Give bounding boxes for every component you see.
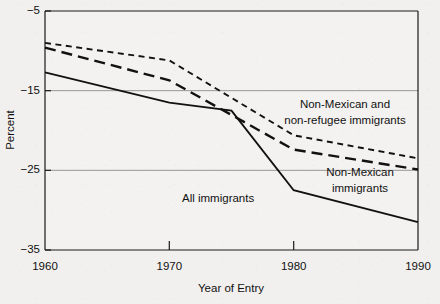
annotation-line-2: non-refugee immigrants bbox=[284, 114, 406, 126]
annotation-line-1: All immigrants bbox=[182, 192, 254, 204]
xtick-label-1980: 1980 bbox=[281, 260, 307, 272]
plot-area-background bbox=[45, 11, 418, 250]
annotation-line-1: Non-Mexican bbox=[326, 166, 394, 178]
x-axis-title: Year of Entry bbox=[198, 282, 264, 294]
chart-figure: −5 −15 −25 −35 1960 1970 1980 1990 Year … bbox=[0, 0, 440, 304]
ytick-label-minus25: −25 bbox=[20, 163, 40, 175]
annotation-line-1: Non-Mexican and bbox=[300, 98, 390, 110]
ytick-label-minus35: −35 bbox=[20, 243, 40, 255]
ytick-label-minus5: −5 bbox=[27, 4, 40, 16]
line-chart-svg: −5 −15 −25 −35 1960 1970 1980 1990 Year … bbox=[0, 0, 440, 304]
xtick-label-1960: 1960 bbox=[32, 260, 58, 272]
annotation-all-immigrants: All immigrants bbox=[182, 192, 254, 204]
xtick-label-1990: 1990 bbox=[405, 260, 431, 272]
xtick-label-1970: 1970 bbox=[157, 260, 183, 272]
ytick-label-minus15: −15 bbox=[20, 84, 40, 96]
y-axis-title: Percent bbox=[4, 109, 16, 149]
annotation-line-2: immigrants bbox=[332, 182, 388, 194]
